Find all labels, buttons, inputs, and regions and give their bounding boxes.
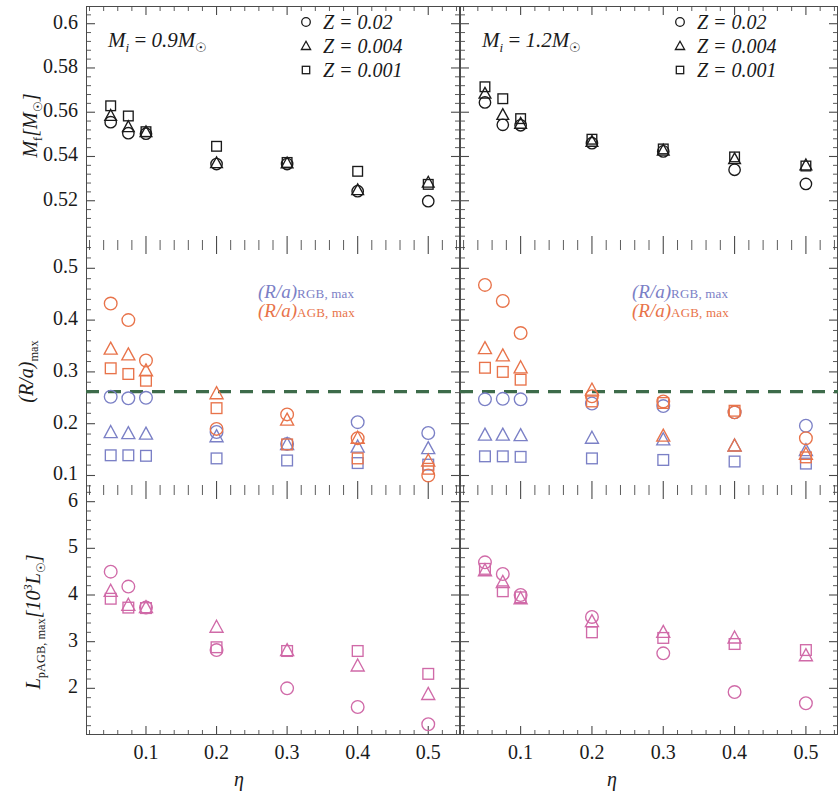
data-point-marker	[514, 361, 527, 373]
data-point-marker	[497, 109, 509, 120]
data-point-marker	[586, 611, 599, 624]
y-tick-label: 6	[68, 489, 78, 512]
x-tick-label: 0.2	[552, 741, 632, 764]
data-point-marker	[139, 427, 152, 439]
data-point-marker	[496, 428, 509, 440]
data-point-marker	[141, 450, 152, 461]
data-point-marker	[480, 362, 491, 373]
data-point-marker	[479, 393, 492, 406]
data-point-marker	[104, 342, 117, 354]
data-point-marker	[497, 451, 508, 462]
data-point-marker	[122, 427, 135, 439]
data-point-marker	[281, 682, 294, 695]
x-tick-label: 0.3	[623, 741, 703, 764]
data-point-marker	[729, 456, 740, 467]
data-point-marker	[352, 453, 363, 464]
data-point-marker	[140, 391, 153, 404]
x-tick-label: 0.1	[106, 741, 186, 764]
data-point-marker	[422, 469, 435, 482]
data-point-marker	[498, 94, 508, 104]
data-point-marker	[515, 374, 526, 385]
data-point-marker	[800, 697, 813, 710]
data-point-marker	[658, 455, 669, 466]
data-point-marker	[585, 383, 598, 395]
data-point-marker	[282, 455, 293, 466]
data-point-marker	[423, 195, 434, 206]
data-point-marker	[105, 363, 116, 374]
data-point-marker	[497, 367, 508, 378]
y-tick-label: 0.2	[53, 411, 78, 434]
data-point-marker	[104, 565, 117, 578]
data-point-marker	[423, 669, 434, 680]
data-point-marker	[210, 426, 223, 439]
y-tick-label: 0.4	[53, 307, 78, 330]
data-point-marker	[587, 453, 598, 464]
x-tick-label: 0.4	[318, 741, 398, 764]
y-tick-label: 0.5	[53, 255, 78, 278]
data-point-marker	[728, 631, 741, 643]
y-tick-label: 0.6	[53, 11, 78, 34]
x-tick-label: 0.2	[177, 741, 257, 764]
data-point-marker	[353, 166, 363, 176]
data-point-marker	[122, 392, 135, 405]
data-point-marker	[586, 397, 599, 410]
data-point-marker	[515, 451, 526, 462]
data-point-marker	[800, 178, 811, 189]
y-tick-label: 0.1	[53, 462, 78, 485]
data-point-marker	[210, 644, 223, 657]
data-point-marker	[657, 429, 670, 441]
y-tick-label: 0.58	[43, 55, 78, 78]
x-tick-label: 0.3	[247, 741, 327, 764]
data-point-marker	[351, 416, 364, 429]
data-point-marker	[480, 451, 491, 462]
data-point-marker	[479, 556, 492, 569]
data-point-marker	[657, 625, 670, 637]
data-point-marker	[141, 375, 152, 386]
data-point-marker	[800, 419, 813, 432]
y-tick-label: 0.3	[53, 359, 78, 382]
data-point-marker	[514, 429, 527, 441]
data-point-marker	[728, 686, 741, 699]
data-point-marker	[587, 627, 598, 638]
y-tick-label: 3	[68, 629, 78, 652]
data-point-marker	[585, 431, 598, 443]
y-tick-label: 2	[68, 675, 78, 698]
data-point-marker	[496, 349, 509, 361]
data-point-marker	[123, 369, 134, 380]
data-point-marker	[422, 427, 435, 440]
data-point-marker	[123, 450, 134, 461]
data-point-marker	[211, 403, 222, 414]
y-tick-label: 0.56	[43, 99, 78, 122]
data-point-marker	[728, 439, 741, 451]
data-point-marker	[105, 450, 116, 461]
data-point-marker	[122, 598, 135, 610]
y-tick-label: 4	[68, 582, 78, 605]
plot-overlay	[0, 0, 838, 799]
data-point-marker	[514, 327, 527, 340]
x-tick-label: 0.4	[695, 741, 775, 764]
data-point-marker	[496, 393, 509, 406]
data-point-marker	[729, 164, 740, 175]
figure-root: Mf[M☉] (R/a)max LpAGB, max[103L☉] η η Mi…	[0, 0, 838, 799]
data-point-marker	[104, 426, 117, 438]
y-tick-label: 0.52	[43, 188, 78, 211]
data-point-marker	[496, 568, 509, 581]
y-tick-label: 0.54	[43, 143, 78, 166]
x-tick-label: 0.5	[766, 741, 838, 764]
data-point-marker	[211, 453, 222, 464]
data-point-marker	[104, 297, 117, 310]
data-point-marker	[729, 639, 740, 650]
data-point-marker	[351, 659, 364, 671]
data-point-marker	[657, 647, 670, 660]
data-point-marker	[422, 442, 435, 454]
data-point-marker	[422, 454, 435, 466]
data-point-marker	[352, 646, 363, 657]
x-tick-label: 0.5	[388, 741, 468, 764]
data-point-marker	[122, 580, 135, 593]
y-tick-label: 5	[68, 535, 78, 558]
data-point-marker	[497, 119, 508, 130]
data-point-marker	[799, 444, 812, 456]
data-point-marker	[352, 458, 363, 469]
data-point-marker	[104, 584, 117, 596]
data-point-marker	[212, 141, 222, 151]
